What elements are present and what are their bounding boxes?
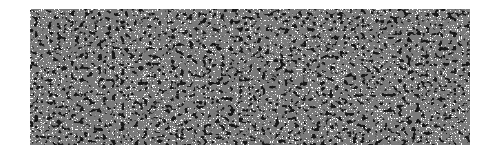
noise-texture-graphic [30, 9, 470, 145]
noise-texture-panel [30, 9, 470, 145]
